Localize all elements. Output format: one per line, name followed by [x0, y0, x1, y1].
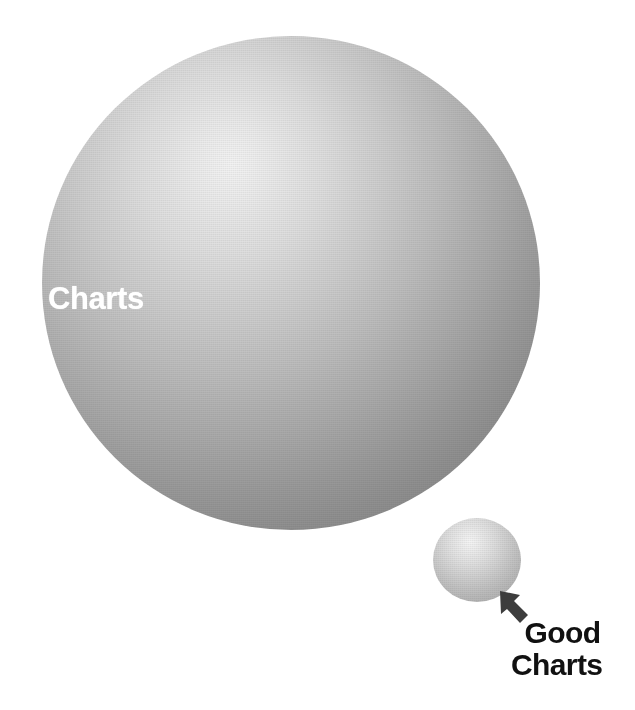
sphere-good-charts-label: Good Charts — [511, 617, 602, 682]
cropped-caption-remnant — [0, 701, 635, 710]
sphere-good-charts-label-line1: Good — [511, 617, 602, 649]
sphere-good-charts-label-line2: Charts — [511, 649, 602, 681]
figure-canvas: Charts Good Charts — [0, 0, 635, 710]
sphere-charts-label: Charts — [48, 283, 144, 314]
